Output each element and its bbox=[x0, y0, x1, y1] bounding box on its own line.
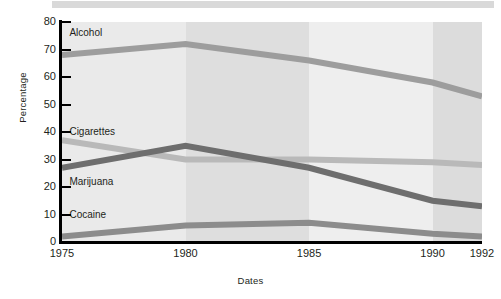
y-axis-tick bbox=[62, 241, 71, 243]
y-axis-tick-label: 60 bbox=[30, 71, 56, 82]
y-axis-tick bbox=[62, 214, 71, 216]
y-axis-tick-label: 70 bbox=[30, 44, 56, 55]
plot-area: AlcoholCigarettesMarijuanaCocaine bbox=[62, 22, 482, 242]
series-label: Alcohol bbox=[69, 28, 102, 38]
y-axis-tick-label: 20 bbox=[30, 181, 56, 192]
y-axis-tick bbox=[62, 104, 71, 106]
x-axis-title: Dates bbox=[0, 275, 501, 286]
chart-figure: AlcoholCigarettesMarijuanaCocaine 010203… bbox=[0, 0, 501, 299]
series-label: Cigarettes bbox=[69, 127, 115, 137]
x-axis-tick-label: 1975 bbox=[32, 247, 92, 259]
y-axis-tick bbox=[62, 159, 71, 161]
y-axis-tick-label: 80 bbox=[30, 16, 56, 27]
y-axis-tick-label: 40 bbox=[30, 126, 56, 137]
y-axis-tick bbox=[62, 76, 71, 78]
x-axis-tick-label: 1985 bbox=[279, 247, 339, 259]
x-axis-line bbox=[59, 241, 482, 244]
y-axis-tick-label: 30 bbox=[30, 154, 56, 165]
top-rule-decoration bbox=[52, 1, 494, 8]
y-axis-tick-label: 0 bbox=[30, 236, 56, 247]
series-label: Marijuana bbox=[69, 177, 113, 187]
y-axis-tick-label: 10 bbox=[30, 209, 56, 220]
y-axis-title: Percentage bbox=[17, 38, 28, 158]
series-lines bbox=[62, 22, 482, 242]
y-axis-tick bbox=[62, 49, 71, 51]
series-line bbox=[62, 223, 482, 237]
y-axis-tick bbox=[62, 186, 71, 188]
y-axis-tick-label: 50 bbox=[30, 99, 56, 110]
series-label: Cocaine bbox=[69, 210, 106, 220]
series-line bbox=[62, 44, 482, 96]
series-line bbox=[62, 146, 482, 207]
x-axis-tick-label: 1992 bbox=[452, 247, 501, 259]
y-axis-tick bbox=[62, 21, 71, 23]
x-axis-tick-label: 1980 bbox=[156, 247, 216, 259]
y-axis-tick bbox=[62, 131, 71, 133]
